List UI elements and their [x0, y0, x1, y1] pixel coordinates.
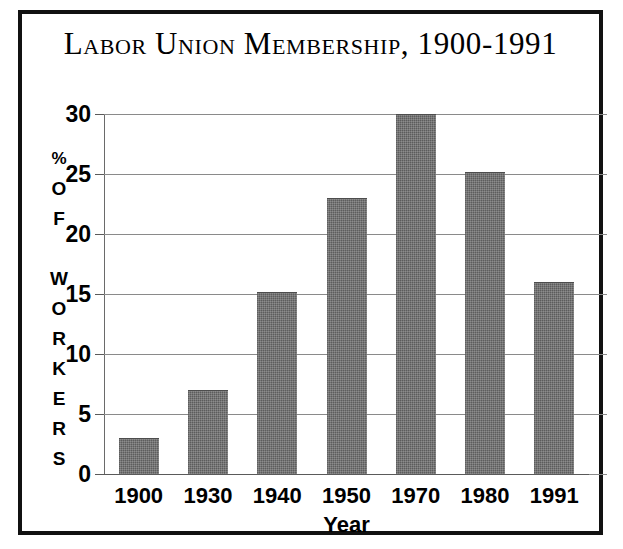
y-axis-tick-label: 20	[65, 221, 91, 248]
y-axis-tick	[95, 234, 104, 235]
y-axis-tick-right	[589, 354, 607, 355]
x-axis-tick-label: 1950	[322, 483, 371, 509]
bar	[396, 114, 436, 474]
y-axis-tick-right	[589, 294, 607, 295]
y-axis-tick-label: 5	[78, 401, 91, 428]
y-axis-tick-label: 0	[78, 461, 91, 488]
y-axis-tick-right	[589, 174, 607, 175]
y-axis-tick-label: 25	[65, 161, 91, 188]
y-axis-title-char: S	[46, 444, 72, 474]
x-axis-tick-label: 1930	[183, 483, 232, 509]
y-axis-title-char: R	[46, 414, 72, 444]
y-axis-tick-right	[589, 414, 607, 415]
y-axis-tick	[95, 114, 104, 115]
y-axis-tick	[95, 354, 104, 355]
y-axis-tick	[95, 174, 104, 175]
bar	[257, 292, 297, 474]
x-axis-tick-label: 1900	[114, 483, 163, 509]
bar	[188, 390, 228, 474]
y-axis-tick-right	[589, 474, 607, 475]
bar-series: 1900193019401950197019801991	[104, 114, 589, 474]
bar	[119, 438, 159, 474]
y-axis-tick-label: 15	[65, 281, 91, 308]
y-axis-tick-right	[589, 234, 607, 235]
y-axis-tick	[95, 414, 104, 415]
chart-title: Labor Union Membership, 1900-1991	[22, 26, 599, 62]
y-axis-tick	[95, 474, 104, 475]
y-axis-title: %OF WORKERS	[46, 144, 72, 474]
plot-inner: 051015202530 190019301940195019701980199…	[104, 114, 589, 474]
y-axis-tick-right	[589, 114, 607, 115]
x-axis-tick-label: 1980	[461, 483, 510, 509]
y-axis-title-char: E	[46, 384, 72, 414]
bar	[327, 198, 367, 474]
x-axis-tick-label: 1940	[253, 483, 302, 509]
gridline	[104, 474, 589, 475]
chart-figure: Labor Union Membership, 1900-1991 %OF WO…	[18, 10, 603, 535]
bar	[534, 282, 574, 474]
x-axis-title: Year	[104, 512, 589, 538]
y-axis-tick	[95, 294, 104, 295]
y-axis-tick-label: 10	[65, 341, 91, 368]
plot-area: 051015202530 190019301940195019701980199…	[104, 114, 589, 474]
bar	[465, 172, 505, 474]
y-axis-tick-label: 30	[65, 101, 91, 128]
x-axis-tick-label: 1991	[530, 483, 579, 509]
x-axis-tick-label: 1970	[391, 483, 440, 509]
